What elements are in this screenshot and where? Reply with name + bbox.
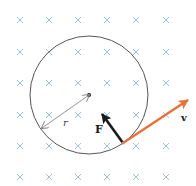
field-cross-icon — [75, 49, 81, 55]
magnetic-field-circular-motion-diagram: r v F — [0, 0, 196, 186]
field-cross-icon — [104, 174, 110, 180]
field-cross-icon — [75, 80, 81, 86]
field-cross-icon — [75, 17, 81, 23]
field-cross-icon — [75, 174, 81, 180]
field-cross-icon — [163, 143, 169, 149]
field-cross-icon — [17, 49, 23, 55]
field-cross-icon — [75, 112, 81, 118]
field-cross-icon — [163, 174, 169, 180]
field-cross-icon — [133, 80, 139, 86]
particle-position — [121, 141, 124, 144]
field-cross-icon — [133, 17, 139, 23]
field-cross-icon — [17, 80, 23, 86]
field-cross-icon — [104, 49, 110, 55]
force-arrow — [102, 114, 123, 143]
field-cross-icon — [133, 112, 139, 118]
field-cross-icon — [104, 80, 110, 86]
field-cross-icon — [163, 80, 169, 86]
field-cross-icon — [46, 80, 52, 86]
velocity-arrow — [123, 100, 188, 143]
radius-label: r — [63, 117, 69, 128]
field-cross-icon — [46, 174, 52, 180]
magnetic-field-into-page-grid — [17, 17, 169, 180]
force-label: F — [95, 123, 103, 136]
field-cross-icon — [75, 143, 81, 149]
field-cross-icon — [17, 174, 23, 180]
field-cross-icon — [17, 112, 23, 118]
field-cross-icon — [46, 112, 52, 118]
velocity-label: v — [180, 112, 188, 123]
field-cross-icon — [133, 143, 139, 149]
field-cross-icon — [163, 49, 169, 55]
field-cross-icon — [46, 17, 52, 23]
field-cross-icon — [104, 143, 110, 149]
field-cross-icon — [17, 143, 23, 149]
field-cross-icon — [17, 17, 23, 23]
field-cross-icon — [133, 49, 139, 55]
field-cross-icon — [104, 17, 110, 23]
field-cross-icon — [133, 174, 139, 180]
field-cross-icon — [163, 17, 169, 23]
field-cross-icon — [46, 143, 52, 149]
